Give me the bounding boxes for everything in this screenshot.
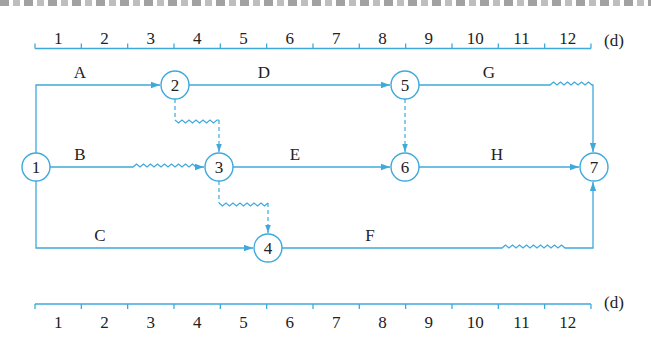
label-H: H [491,145,503,164]
label-F: F [365,226,374,245]
label-B: B [74,145,85,164]
activity-labels: A B C D E F G H [74,63,503,245]
top-scale-label-2: 2 [100,29,109,48]
label-E: E [290,145,300,164]
node-3: 3 [205,153,233,181]
node-2-label: 2 [171,76,180,95]
label-A: A [74,63,87,82]
cropped-caption-text [0,0,651,6]
top-scale-label-9: 9 [425,29,434,48]
label-G: G [483,63,495,82]
node-6-label: 6 [401,158,410,177]
bottom-scale-label-1: 1 [54,313,63,332]
label-D: D [258,63,270,82]
bottom-scale-label-12: 12 [559,313,576,332]
bottom-scale-label-5: 5 [239,313,248,332]
node-5: 5 [391,71,419,99]
bottom-time-scale [35,304,591,309]
bottom-scale-labels: 123456789101112 [54,313,576,332]
top-scale-label-12: 12 [559,29,576,48]
node-1: 1 [22,153,50,181]
label-C: C [94,226,105,245]
top-time-scale [35,44,591,49]
node-4-label: 4 [264,239,273,258]
top-scale-label-8: 8 [378,29,387,48]
node-7-label: 7 [590,158,599,177]
bottom-scale-label-3: 3 [147,313,156,332]
node-4: 4 [254,234,282,262]
bottom-scale-unit: (d) [604,293,624,312]
top-scale-label-5: 5 [239,29,248,48]
bottom-scale-label-9: 9 [425,313,434,332]
top-scale-label-4: 4 [193,29,202,48]
bottom-scale-label-10: 10 [467,313,484,332]
top-scale-label-10: 10 [467,29,484,48]
activity-F-arrow [282,182,593,248]
top-scale-label-6: 6 [286,29,295,48]
node-2: 2 [161,71,189,99]
network-diagram: 123456789101112 (d) [0,0,651,347]
node-6: 6 [391,153,419,181]
node-7: 7 [580,153,608,181]
bottom-scale-label-4: 4 [193,313,202,332]
node-1-label: 1 [32,158,41,177]
activity-G-arrow [419,82,593,152]
dummy-3-4-wavy [219,203,268,206]
activity-B-arrow [50,164,204,167]
top-scale-label-7: 7 [332,29,341,48]
diagram-svg: 123456789101112 (d) [0,0,651,347]
node-5-label: 5 [401,76,410,95]
top-scale-unit: (d) [604,31,624,50]
activity-A-arrow [36,85,160,153]
bottom-scale-label-7: 7 [332,313,341,332]
bottom-scale-label-8: 8 [378,313,387,332]
bottom-scale-label-11: 11 [513,313,529,332]
dummy-2-3-wavy [175,120,219,123]
bottom-scale-label-2: 2 [100,313,109,332]
activity-C-arrow [36,181,253,248]
bottom-scale-label-6: 6 [286,313,295,332]
top-scale-label-11: 11 [513,29,529,48]
node-3-label: 3 [215,158,224,177]
top-scale-label-3: 3 [147,29,156,48]
top-scale-label-1: 1 [54,29,63,48]
